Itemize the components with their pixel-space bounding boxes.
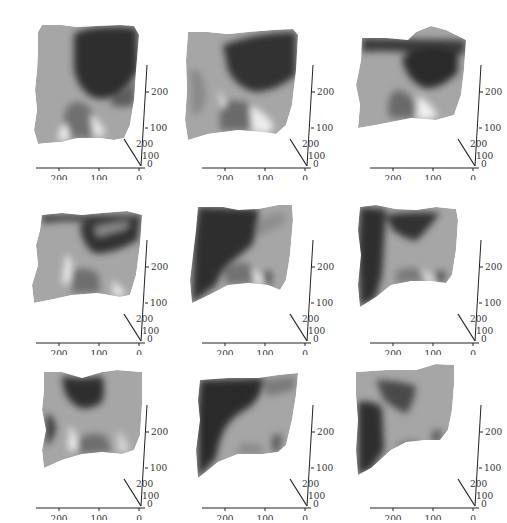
y-tick-label: 0	[147, 334, 153, 344]
y-tick-label: 0	[481, 334, 487, 344]
x-tick-label: 0	[470, 174, 476, 180]
z-tick-label: 200	[317, 262, 334, 272]
x-tick-label: 0	[136, 514, 142, 520]
surface-plot: 200 100 0 200 100 200 100 0	[336, 10, 504, 180]
surface-plot-panel-7: 200 100 0 200 100 200 100 0	[2, 350, 170, 520]
surface-region	[358, 402, 384, 475]
x-tick-label: 200	[50, 514, 67, 520]
surface-region	[432, 430, 442, 444]
y-tick-label: 200	[470, 314, 487, 324]
y-tick-label: 200	[302, 139, 319, 149]
x-tick-label: 100	[424, 514, 441, 520]
z-tick-label: 200	[485, 262, 502, 272]
x-tick-label: 200	[50, 174, 67, 180]
z-tick-label: 200	[485, 427, 502, 437]
surface-plot-panel-6: 200 100 0 200 100 200 100 0	[336, 185, 504, 355]
surface-plot: 200 100 0 200 100 200 100 0	[168, 185, 336, 355]
z-tick-label: 200	[151, 262, 168, 272]
x-tick-label: 0	[302, 514, 308, 520]
surface-plot: 200 100 0 200 100 200 100 0	[2, 10, 170, 180]
surface-mesh	[190, 205, 293, 303]
surface-plot: 200 100 0 200 100 200 100 0	[336, 185, 504, 355]
z-tick-label: 100	[316, 298, 333, 308]
y-tick-label: 200	[136, 139, 153, 149]
surface-mesh	[34, 25, 139, 144]
y-tick-label: 200	[470, 479, 487, 489]
z-tick-label: 200	[317, 427, 334, 437]
surface-mesh	[32, 211, 142, 303]
x-tick-label: 0	[136, 174, 142, 180]
surface-plot: 200 100 0 200 100 200 100 0	[168, 10, 336, 180]
x-tick-label: 100	[256, 514, 273, 520]
z-tick-label: 100	[484, 463, 501, 473]
surface-plot-panel-9: 200 100 0 200 100 200 100 0	[336, 350, 504, 520]
x-tick-label: 200	[216, 514, 233, 520]
surface-plot-panel-2: 200 100 0 200 100 200 100 0	[168, 10, 336, 180]
z-tick-label: 200	[317, 87, 334, 97]
surface-mesh	[356, 26, 466, 128]
z-tick-label: 200	[485, 87, 502, 97]
y-tick-label: 0	[481, 499, 487, 509]
surface-mesh	[196, 373, 298, 478]
z-tick-label: 100	[316, 123, 333, 133]
surface-plot-panel-4: 200 100 0 200 100 200 100 0	[2, 185, 170, 355]
x-tick-label: 100	[90, 174, 107, 180]
y-tick-label: 0	[313, 334, 319, 344]
surface-plot-panel-8: 200 100 0 200 100 200 100 0	[168, 350, 336, 520]
surface-plot: 200 100 0 200 100 200 100 0	[168, 350, 336, 520]
surface-plot-panel-1: 200 100 0 200 100 200 100 0	[2, 10, 170, 180]
y-tick-label: 200	[136, 479, 153, 489]
z-tick-label: 200	[151, 87, 168, 97]
surface-mesh	[185, 29, 298, 140]
x-tick-label: 0	[302, 174, 308, 180]
x-tick-label: 100	[90, 514, 107, 520]
z-tick-label: 100	[484, 298, 501, 308]
z-tick-label: 100	[150, 298, 167, 308]
surface-region	[72, 268, 100, 293]
surface-plot: 200 100 0 200 100 200 100 0	[2, 185, 170, 355]
surface-plot-panel-3: 200 100 0 200 100 200 100 0	[336, 10, 504, 180]
surface-mesh	[356, 364, 454, 475]
y-tick-label: 200	[136, 314, 153, 324]
y-tick-label: 200	[302, 479, 319, 489]
surface-region	[264, 271, 272, 285]
y-tick-label: 0	[481, 159, 487, 169]
z-tick-label: 100	[150, 123, 167, 133]
y-tick-label: 200	[470, 139, 487, 149]
y-tick-label: 200	[302, 314, 319, 324]
surface-plot: 200 100 0 200 100 200 100 0	[2, 350, 170, 520]
x-tick-label: 200	[384, 174, 401, 180]
y-tick-label: 0	[313, 159, 319, 169]
z-tick-label: 100	[150, 463, 167, 473]
z-tick-label: 100	[484, 123, 501, 133]
surface-plot-panel-5: 200 100 0 200 100 200 100 0	[168, 185, 336, 355]
y-tick-label: 0	[147, 499, 153, 509]
x-tick-label: 200	[216, 174, 233, 180]
z-tick-label: 200	[151, 427, 168, 437]
surface-mesh	[42, 370, 142, 468]
x-tick-label: 100	[424, 174, 441, 180]
x-tick-label: 100	[256, 174, 273, 180]
y-tick-label: 0	[147, 159, 153, 169]
x-tick-label: 0	[470, 514, 476, 520]
z-tick-label: 100	[316, 463, 333, 473]
x-tick-label: 200	[384, 514, 401, 520]
y-tick-label: 0	[313, 499, 319, 509]
surface-mesh	[358, 205, 458, 307]
surface-plot: 200 100 0 200 100 200 100 0	[336, 350, 504, 520]
